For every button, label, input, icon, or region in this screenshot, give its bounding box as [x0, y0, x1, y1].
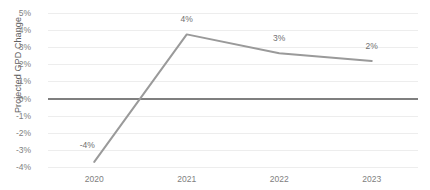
series-polyline — [94, 34, 372, 161]
y-tick-label: -2% — [1, 128, 31, 138]
y-tick-label: -1% — [1, 111, 31, 121]
data-label: -4% — [80, 140, 95, 150]
y-tick-label: 1% — [1, 76, 31, 86]
y-tick-label: 3% — [1, 42, 31, 52]
data-label: 2% — [366, 41, 378, 51]
y-tick-label: -3% — [1, 145, 31, 155]
series-line — [48, 13, 418, 167]
plot-area: 5%4%3%2%1%0%-1%-2%-3%-4% 202020212022202… — [48, 13, 418, 167]
y-tick-label: -4% — [1, 162, 31, 172]
x-tick-label: 2023 — [342, 174, 402, 184]
y-tick-label: 0% — [1, 94, 31, 104]
y-tick-label: 5% — [1, 8, 31, 18]
y-tick-label: 4% — [1, 25, 31, 35]
data-label: 3% — [273, 33, 285, 43]
line-chart: Projected GPD Change 5%4%3%2%1%0%-1%-2%-… — [0, 0, 430, 190]
gridline — [48, 167, 418, 168]
x-tick-label: 2021 — [157, 174, 217, 184]
y-tick-label: 2% — [1, 59, 31, 69]
data-label: 4% — [181, 14, 193, 24]
x-tick-label: 2020 — [64, 174, 124, 184]
x-tick-label: 2022 — [249, 174, 309, 184]
